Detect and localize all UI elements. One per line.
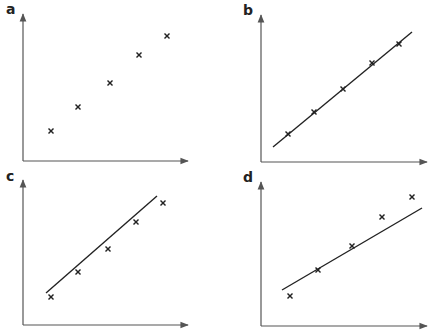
data-point-cross-icon: [49, 129, 54, 134]
data-point-cross-icon: [76, 105, 81, 110]
panel-label-d: d: [243, 169, 253, 185]
data-point-cross-icon: [49, 295, 54, 300]
panel-label-c: c: [6, 168, 14, 184]
panel-d: [261, 182, 427, 326]
data-point-cross-icon: [108, 81, 113, 86]
data-point-cross-icon: [134, 220, 139, 225]
panel-label-a: a: [6, 1, 15, 17]
data-point-cross-icon: [350, 244, 355, 249]
data-point-cross-icon: [288, 294, 293, 299]
data-point-cross-icon: [106, 247, 111, 252]
panel-b: [261, 15, 427, 162]
fit-line: [282, 208, 422, 290]
data-point-cross-icon: [76, 270, 81, 275]
data-point-cross-icon: [165, 34, 170, 39]
data-point-cross-icon: [410, 195, 415, 200]
panel-c: [23, 180, 188, 325]
data-point-cross-icon: [380, 215, 385, 220]
panel-label-b: b: [243, 2, 253, 18]
scatter-panels: a b c d: [0, 0, 441, 334]
data-point-cross-icon: [161, 201, 166, 206]
data-point-cross-icon: [341, 87, 346, 92]
data-point-cross-icon: [137, 53, 142, 58]
fit-line: [46, 196, 157, 293]
panel-a: [23, 14, 188, 161]
plot-area: [23, 14, 427, 326]
